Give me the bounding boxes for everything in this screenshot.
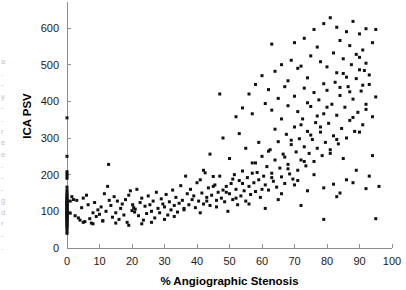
data-point (176, 211, 179, 214)
x-tick-label: 80 (321, 255, 333, 267)
data-point (131, 203, 134, 206)
data-point (157, 207, 160, 210)
data-point (280, 192, 283, 195)
data-point (345, 178, 348, 181)
data-point (69, 200, 72, 203)
data-point (303, 160, 306, 163)
data-point (124, 198, 127, 201)
data-point (212, 185, 215, 188)
data-point (265, 165, 268, 168)
data-point (355, 77, 358, 80)
data-point (342, 157, 345, 160)
data-point (361, 123, 364, 126)
data-point (80, 206, 83, 209)
data-point (280, 63, 283, 66)
data-point (277, 198, 280, 201)
data-point (309, 54, 312, 57)
data-point (137, 214, 140, 217)
data-point (82, 197, 85, 200)
data-point (296, 169, 299, 172)
data-point (358, 68, 361, 71)
x-tick-label: 30 (158, 255, 170, 267)
data-point (246, 176, 249, 179)
data-point (96, 208, 99, 211)
data-point (235, 197, 238, 200)
data-point (226, 210, 229, 213)
data-point (114, 211, 117, 214)
data-point (140, 222, 143, 225)
data-point (261, 188, 264, 191)
data-point (200, 192, 203, 195)
data-point (339, 39, 342, 42)
data-point (160, 197, 163, 200)
data-point (241, 106, 244, 109)
data-point (153, 216, 156, 219)
data-point (252, 181, 255, 184)
data-point (257, 141, 260, 144)
data-point (355, 169, 358, 172)
data-point (270, 109, 273, 112)
data-point (111, 216, 114, 219)
data-point (352, 20, 355, 23)
data-point (215, 205, 218, 208)
data-point (319, 131, 322, 134)
data-point (326, 89, 329, 92)
data-point (278, 167, 281, 170)
data-point (239, 194, 242, 197)
data-point (290, 59, 293, 62)
data-point (293, 95, 296, 98)
data-point (324, 141, 327, 144)
data-point (329, 16, 332, 19)
data-point (290, 139, 293, 142)
y-axis-tick-labels: 0100200300400500600 (41, 22, 59, 254)
data-point (332, 51, 335, 54)
data-point (152, 200, 155, 203)
data-point (316, 115, 319, 118)
data-point (374, 28, 377, 31)
data-point (309, 105, 312, 108)
data-point (209, 204, 212, 207)
data-point (300, 204, 303, 207)
data-point (127, 224, 130, 227)
data-point (326, 65, 329, 68)
data-point (79, 219, 82, 222)
data-point (264, 102, 267, 105)
data-point (150, 221, 153, 224)
data-point (329, 148, 332, 151)
data-point (272, 180, 275, 183)
data-point (296, 110, 299, 113)
data-point (161, 203, 164, 206)
data-point (348, 44, 351, 47)
data-point (251, 112, 254, 115)
data-point (360, 90, 363, 93)
data-point (163, 205, 166, 208)
data-point (158, 211, 161, 214)
data-point (347, 85, 350, 88)
data-point (204, 171, 207, 174)
data-point (105, 210, 108, 213)
data-point (335, 138, 338, 141)
data-point (317, 98, 320, 101)
y-tick-label: 600 (41, 22, 59, 34)
data-point (205, 200, 208, 203)
y-tick-label: 0 (53, 242, 59, 254)
data-point (231, 178, 234, 181)
data-point (178, 202, 181, 205)
data-point (308, 152, 311, 155)
data-point (225, 191, 228, 194)
data-point (189, 188, 192, 191)
data-point (283, 85, 286, 88)
data-point (267, 88, 270, 91)
data-point (139, 201, 142, 204)
y-tick-label: 400 (41, 95, 59, 107)
data-point (218, 175, 221, 178)
x-axis-ticks (67, 244, 392, 248)
data-point (202, 169, 205, 172)
data-point (298, 137, 301, 140)
data-point (244, 200, 247, 203)
data-point (342, 72, 345, 75)
data-point (184, 175, 187, 178)
data-point (365, 103, 368, 106)
data-point (275, 186, 278, 189)
data-point (319, 60, 322, 63)
